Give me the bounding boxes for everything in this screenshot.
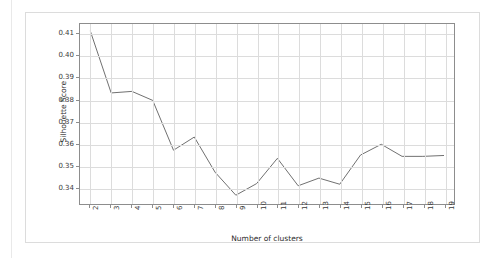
x-axis-tick-mark: [152, 205, 153, 208]
y-axis-title: Silhouette Score: [59, 83, 68, 143]
gridline-vertical: [383, 24, 384, 204]
gridline-vertical: [362, 24, 363, 204]
y-axis-tick-mark: [76, 122, 79, 123]
x-axis-tick-mark: [424, 205, 425, 208]
y-axis-tick-mark: [76, 100, 79, 101]
x-axis-tick-mark: [277, 205, 278, 208]
gridline-horizontal: [80, 145, 454, 146]
x-axis-tick-mark: [445, 205, 446, 208]
x-axis-tick-label: 2: [92, 206, 100, 210]
x-axis-tick-mark: [110, 205, 111, 208]
gridline-vertical: [174, 24, 175, 204]
x-axis-tick-label: 5: [155, 206, 163, 210]
y-axis-tick-mark: [76, 55, 79, 56]
silhouette-score-line-series: [80, 24, 454, 204]
x-axis-tick-mark: [403, 205, 404, 208]
gridline-horizontal: [80, 167, 454, 168]
gridline-vertical: [237, 24, 238, 204]
x-axis-tick-mark: [215, 205, 216, 208]
x-axis-tick-label: 4: [134, 206, 142, 210]
x-axis-tick-label: 13: [322, 201, 330, 210]
gridline-horizontal: [80, 56, 454, 57]
y-axis-tick-mark: [76, 33, 79, 34]
y-axis-tick-mark: [76, 166, 79, 167]
x-axis-tick-label: 3: [113, 206, 121, 210]
x-axis-tick-label: 7: [197, 206, 205, 210]
gridline-vertical: [132, 24, 133, 204]
gridline-vertical: [258, 24, 259, 204]
gridline-vertical: [278, 24, 279, 204]
y-axis-tick-label: 0.34: [58, 184, 74, 192]
y-axis-tick-label: 0.35: [58, 162, 74, 170]
x-axis-tick-mark: [382, 205, 383, 208]
gridline-horizontal: [80, 78, 454, 79]
x-axis-tick-mark: [340, 205, 341, 208]
gridline-horizontal: [80, 101, 454, 102]
gridline-vertical: [446, 24, 447, 204]
x-axis-tick-label: 6: [176, 206, 184, 210]
gridline-vertical: [299, 24, 300, 204]
x-axis-tick-mark: [257, 205, 258, 208]
x-axis-tick-mark: [298, 205, 299, 208]
x-axis-tick-label: 12: [301, 201, 309, 210]
gridline-horizontal: [80, 189, 454, 190]
x-axis-tick-label: 18: [427, 201, 435, 210]
gridline-vertical: [111, 24, 112, 204]
x-axis-tick-mark: [236, 205, 237, 208]
x-axis-tick-mark: [131, 205, 132, 208]
gridline-vertical: [153, 24, 154, 204]
x-axis-tick-mark: [319, 205, 320, 208]
gridline-horizontal: [80, 123, 454, 124]
y-axis-tick-label: 0.40: [58, 51, 74, 59]
chart-figure: 0.340.350.360.370.380.390.400.41 2345678…: [25, 12, 480, 243]
y-axis-tick-mark: [76, 144, 79, 145]
x-axis-tick-label: 19: [448, 201, 456, 210]
gridline-vertical: [404, 24, 405, 204]
x-axis-tick-label: 11: [280, 201, 288, 210]
x-axis-title: Number of clusters: [79, 234, 455, 243]
plot-area: [79, 23, 455, 205]
x-axis-tick-mark: [173, 205, 174, 208]
y-axis-tick-mark: [76, 188, 79, 189]
scan-edge-artifact: [11, 0, 12, 258]
x-axis-tick-mark: [361, 205, 362, 208]
y-axis-tick-mark: [76, 77, 79, 78]
gridline-horizontal: [80, 34, 454, 35]
x-axis-tick-label: 8: [218, 206, 226, 210]
gridline-vertical: [341, 24, 342, 204]
x-axis-tick-label: 10: [260, 201, 268, 210]
x-axis-tick-mark: [194, 205, 195, 208]
page-background: 0.340.350.360.370.380.390.400.41 2345678…: [0, 0, 504, 258]
x-axis-tick-label: 16: [385, 201, 393, 210]
gridline-vertical: [90, 24, 91, 204]
gridline-vertical: [195, 24, 196, 204]
x-axis-tick-label: 14: [343, 201, 351, 210]
gridline-vertical: [425, 24, 426, 204]
gridline-vertical: [216, 24, 217, 204]
x-axis-tick-mark: [89, 205, 90, 208]
gridline-vertical: [320, 24, 321, 204]
x-axis-tick-label: 9: [239, 206, 247, 210]
x-axis-tick-label: 17: [406, 201, 414, 210]
y-axis-tick-label: 0.41: [58, 29, 74, 37]
x-axis-tick-label: 15: [364, 201, 372, 210]
